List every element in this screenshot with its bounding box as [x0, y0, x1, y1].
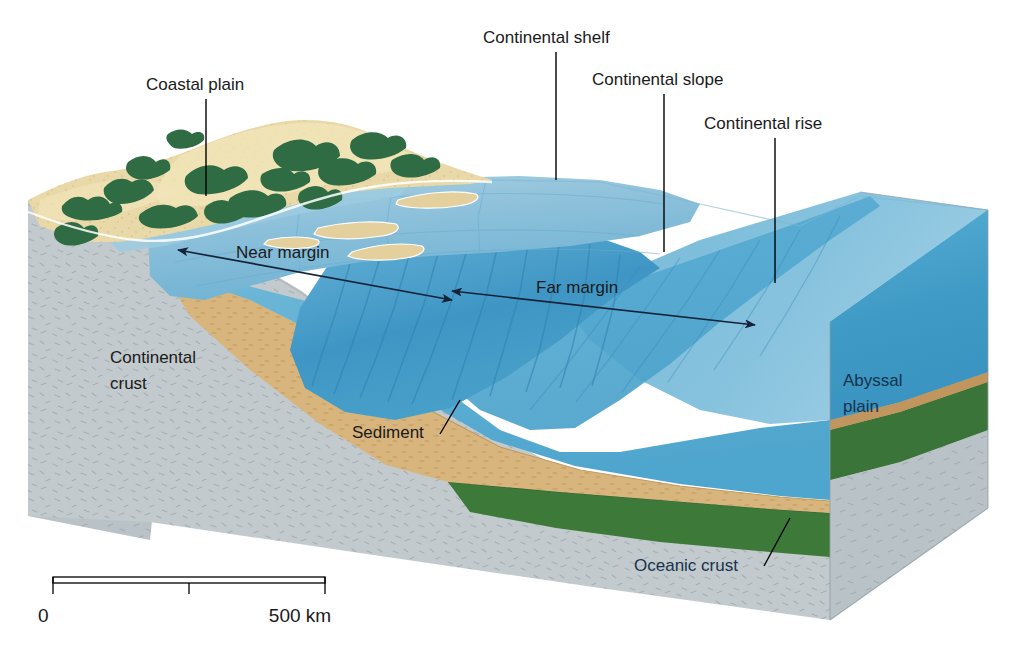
scale-bar: 0 500 km	[38, 577, 331, 626]
continental-rise-label: Continental rise	[704, 114, 822, 133]
continental-crust-label-line2: crust	[110, 374, 147, 393]
sediment-label: Sediment	[352, 423, 424, 442]
scale-bar-body	[53, 577, 325, 583]
far-margin-label: Far margin	[536, 278, 618, 297]
abyssal-plain-label-line1: Abyssal	[843, 371, 903, 390]
coastal-plain-label: Coastal plain	[146, 75, 244, 94]
scale-end-label: 500 km	[269, 605, 331, 626]
oceanic-crust-label: Oceanic crust	[634, 556, 738, 575]
near-margin-label: Near margin	[236, 243, 330, 262]
continental-slope-label: Continental slope	[592, 70, 723, 89]
abyssal-plain-label-line2: plain	[843, 397, 879, 416]
label-continental-shelf: Continental shelf	[483, 28, 610, 180]
continental-crust-label-line1: Continental	[110, 348, 196, 367]
continental-margin-diagram: Coastal plain Continental shelf Continen…	[0, 0, 1015, 649]
scale-start-label: 0	[38, 605, 49, 626]
continental-shelf-label: Continental shelf	[483, 28, 610, 47]
